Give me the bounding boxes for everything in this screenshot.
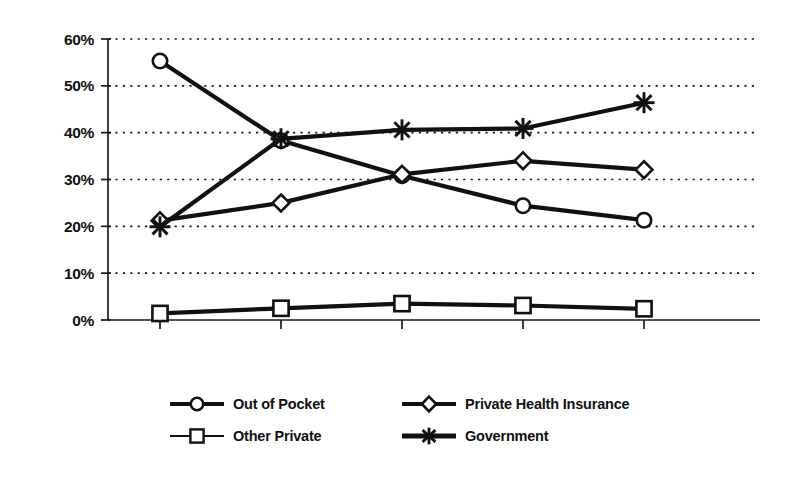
data-point-other-private [273,301,288,316]
data-point-government [634,92,655,113]
data-point-private-health-insurance [273,195,290,212]
legend-label-other-private: Other Private [233,428,321,444]
legend-label-private-health-insurance: Private Health Insurance [465,396,629,412]
chart-legend: Out of Pocket Private Health Insurance O… [168,388,628,452]
series-private-health-insurance [152,152,653,229]
data-point-other-private [636,301,651,316]
legend-marker-asterisk-icon [400,425,458,447]
y-axis-ticks [101,39,111,320]
x-axis-tick-label: 1970 [264,338,298,340]
legend-label-government: Government [465,428,548,444]
data-point-other-private [394,296,409,311]
legend-item-private-health-insurance[interactable]: Private Health Insurance [400,388,632,420]
plot-area: 0%10%20%30%40%50%60% 1960197019801990199… [0,0,788,340]
y-axis-tick-label: 30% [64,171,95,188]
data-point-other-private [515,298,530,313]
series-out-of-pocket [153,54,651,228]
x-axis-ticks [160,320,644,329]
data-point-other-private [152,306,167,321]
x-axis-tick-labels: 19601970198019901995 [143,338,661,340]
data-point-private-health-insurance [515,152,532,169]
y-axis-tick-label: 10% [64,265,95,282]
series-other-private [152,296,651,321]
y-axis-tick-label: 20% [64,218,95,235]
legend-marker-diamond-icon [400,393,458,415]
y-axis-tick-label: 60% [64,31,95,48]
y-axis-tick-label: 50% [64,77,95,94]
data-point-out-of-pocket [153,54,167,68]
data-point-government [150,216,171,237]
x-axis-tick-label: 1960 [143,338,177,340]
x-axis-tick-label: 1980 [385,338,419,340]
chart-container: 0%10%20%30%40%50%60% 1960197019801990199… [0,0,788,477]
data-point-private-health-insurance [636,161,653,178]
y-axis-tick-label: 0% [72,312,94,329]
legend-item-other-private[interactable]: Other Private [168,420,400,452]
chart-svg: 0%10%20%30%40%50%60% 1960197019801990199… [0,0,788,340]
data-point-government [513,118,534,139]
x-axis-tick-label: 1990 [506,338,540,340]
data-point-out-of-pocket [516,199,530,213]
legend-marker-circle-icon [168,393,226,415]
legend-item-government[interactable]: Government [400,420,632,452]
data-point-government [271,128,292,149]
legend-item-out-of-pocket[interactable]: Out of Pocket [168,388,400,420]
legend-marker-square-icon [168,425,226,447]
legend-label-out-of-pocket: Out of Pocket [233,396,325,412]
series-line-out-of-pocket [160,61,644,220]
data-series [150,54,655,321]
x-axis-tick-label: 1995 [627,338,661,340]
y-axis-tick-label: 40% [64,124,95,141]
data-point-out-of-pocket [637,213,651,227]
y-axis-tick-labels: 0%10%20%30%40%50%60% [64,31,95,329]
data-point-government [392,119,413,140]
gridlines [108,39,756,273]
